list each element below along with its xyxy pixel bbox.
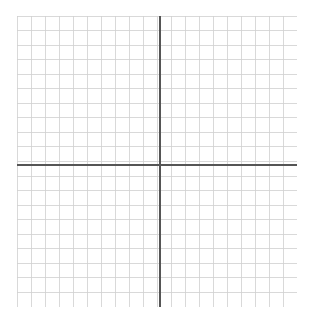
- coordinate-plane: [17, 16, 297, 307]
- graph-paper-canvas: [0, 0, 315, 322]
- grid-lines: [17, 16, 297, 307]
- grid-svg: [17, 16, 297, 307]
